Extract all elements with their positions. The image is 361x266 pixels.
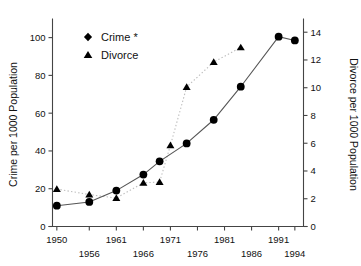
crime-data-point	[112, 187, 120, 195]
crime-data-point	[275, 33, 283, 41]
left-axis-tick-label: 80	[35, 70, 46, 81]
crime-data-point	[85, 198, 93, 206]
left-axis: 020406080100Crime per 1000 Population	[7, 19, 53, 232]
x-axis-tick-label-top: 1971	[160, 234, 181, 245]
left-axis-tick-label: 20	[35, 183, 46, 194]
divorce-data-point	[53, 185, 61, 192]
right-axis-tick-label: 4	[311, 165, 316, 176]
divorce-data-point	[210, 58, 218, 65]
crime-divorce-line-chart: 020406080100Crime per 1000 Population 02…	[0, 0, 361, 266]
crime-data-point	[210, 116, 218, 124]
left-axis-tick-label: 0	[40, 221, 45, 232]
left-axis-tick-label: 40	[35, 145, 46, 156]
crime-data-point	[291, 37, 299, 45]
crime-series-line	[57, 37, 295, 206]
left-axis-title: Crime per 1000 Population	[7, 62, 19, 187]
crime-data-point	[53, 202, 61, 210]
right-axis-tick-label: 10	[311, 82, 322, 93]
legend-label-crime: Crime *	[101, 31, 138, 43]
x-axis-tick-label-bottom: 1994	[284, 248, 305, 259]
x-axis-tick-label-top: 1981	[214, 234, 235, 245]
chart-legend: Crime *Divorce	[84, 31, 139, 61]
x-axis-tick-label-top: 1991	[268, 234, 289, 245]
right-axis-tick-label: 14	[311, 27, 322, 38]
right-axis-title: Divorce per 1000 Population	[348, 58, 360, 191]
left-axis-tick-label: 100	[30, 32, 46, 43]
x-axis-tick-label-bottom: 1986	[241, 248, 262, 259]
legend-marker-crime-diamond-icon	[84, 33, 92, 42]
right-axis-tick-label: 12	[311, 54, 322, 65]
x-axis-tick-label-top: 1961	[106, 234, 127, 245]
divorce-data-point	[156, 178, 164, 185]
right-axis-tick-label: 0	[311, 221, 316, 232]
legend-label-divorce: Divorce	[101, 49, 138, 61]
divorce-data-point	[237, 44, 245, 51]
right-axis-tick-label: 6	[311, 138, 316, 149]
divorce-data-point	[166, 142, 174, 149]
x-axis: 1950196119711981199119561966197619861994	[46, 227, 307, 259]
crime-data-point	[183, 139, 191, 147]
divorce-data-point	[112, 194, 120, 201]
crime-data-point	[139, 171, 147, 179]
left-axis-tick-label: 60	[35, 108, 46, 119]
right-axis: 02468101214Divorce per 1000 Population	[304, 19, 361, 232]
divorce-data-point	[183, 83, 191, 90]
right-axis-tick-label: 2	[311, 193, 316, 204]
x-axis-tick-label-bottom: 1966	[133, 248, 154, 259]
crime-data-point	[237, 83, 245, 91]
x-axis-tick-label-bottom: 1956	[79, 248, 100, 259]
right-axis-tick-label: 8	[311, 110, 316, 121]
plot-area	[53, 33, 299, 210]
x-axis-tick-label-bottom: 1976	[187, 248, 208, 259]
crime-data-point	[156, 157, 164, 165]
x-axis-tick-label-top: 1950	[46, 234, 67, 245]
chart-container: 020406080100Crime per 1000 Population 02…	[0, 0, 361, 266]
legend-marker-divorce-triangle-icon	[84, 51, 93, 58]
